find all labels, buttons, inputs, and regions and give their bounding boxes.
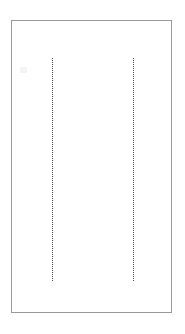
document-viewport xyxy=(0,0,185,334)
left-margin-guide xyxy=(52,58,53,281)
page-sheet[interactable] xyxy=(11,20,172,313)
page-canvas[interactable] xyxy=(12,21,171,312)
right-margin-guide xyxy=(133,58,134,281)
faint-mark xyxy=(20,67,27,73)
